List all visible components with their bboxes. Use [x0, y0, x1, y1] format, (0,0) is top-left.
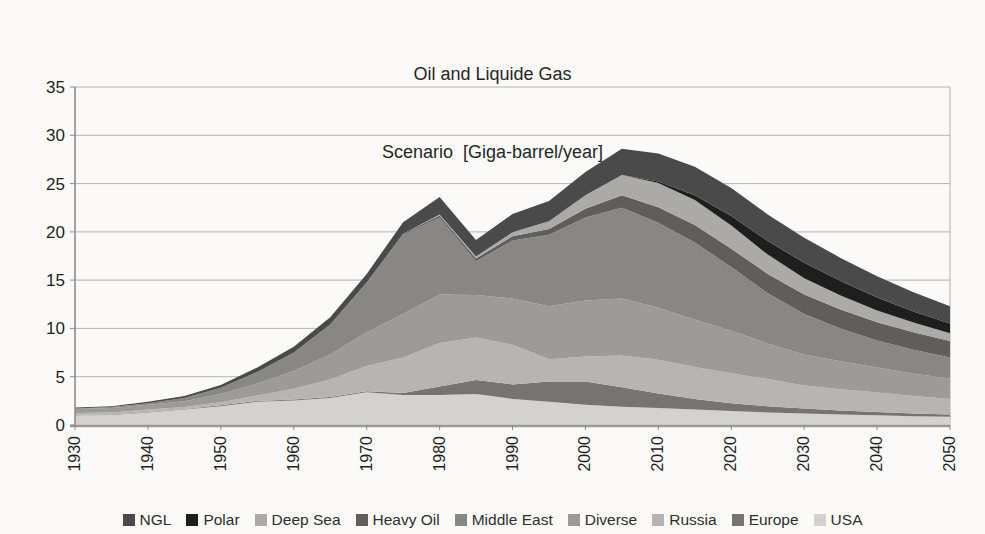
y-tick-label-5: 5: [56, 368, 65, 387]
legend-swatch-polar: [186, 514, 198, 526]
x-tick-label-1980: 1980: [431, 436, 448, 472]
x-tick-label-1970: 1970: [358, 436, 375, 472]
legend-item-russia: Russia: [652, 511, 716, 529]
legend-label-polar: Polar: [203, 511, 239, 529]
legend-item-polar: Polar: [186, 511, 239, 529]
x-tick-label-1950: 1950: [212, 436, 229, 472]
y-tick-label-35: 35: [46, 78, 65, 97]
legend-item-diverse: Diverse: [568, 511, 638, 529]
x-tick-label-2010: 2010: [649, 436, 666, 472]
x-tick-label-1960: 1960: [285, 436, 302, 472]
legend-item-europe: Europe: [732, 511, 799, 529]
x-tick-label-2030: 2030: [795, 436, 812, 472]
scanned-chart-page: Oil and Liquide Gas Scenario [Giga-barre…: [0, 0, 985, 534]
legend-swatch-europe: [732, 514, 744, 526]
y-tick-label-10: 10: [46, 319, 65, 338]
legend-label-middle-east: Middle East: [472, 511, 553, 529]
y-tick-label-25: 25: [46, 175, 65, 194]
legend-swatch-diverse: [568, 514, 580, 526]
legend-swatch-heavy-oil: [356, 514, 368, 526]
legend-label-heavy-oil: Heavy Oil: [373, 511, 440, 529]
legend-label-russia: Russia: [669, 511, 716, 529]
x-tick-label-1930: 1930: [66, 436, 83, 472]
x-tick-label-2050: 2050: [941, 436, 958, 472]
legend-label-ngl: NGL: [140, 511, 172, 529]
x-tick-label-2040: 2040: [868, 436, 885, 472]
x-tick-label-2020: 2020: [722, 436, 739, 472]
y-tick-label-15: 15: [46, 271, 65, 290]
legend-item-middle-east: Middle East: [455, 511, 553, 529]
y-tick-label-30: 30: [46, 126, 65, 145]
x-tick-label-1940: 1940: [139, 436, 156, 472]
stacked-area-chart: 0510152025303519301940195019601970198019…: [0, 0, 985, 534]
legend-swatch-ngl: [123, 514, 135, 526]
legend-swatch-middle-east: [455, 514, 467, 526]
legend-swatch-deep-sea: [255, 514, 267, 526]
x-tick-label-1990: 1990: [504, 436, 521, 472]
legend-item-heavy-oil: Heavy Oil: [356, 511, 440, 529]
legend-label-usa: USA: [831, 511, 863, 529]
legend-label-europe: Europe: [749, 511, 799, 529]
legend-swatch-russia: [652, 514, 664, 526]
legend-label-deep-sea: Deep Sea: [272, 511, 341, 529]
legend-swatch-usa: [814, 514, 826, 526]
legend-item-ngl: NGL: [123, 511, 172, 529]
legend-item-usa: USA: [814, 511, 863, 529]
legend-label-diverse: Diverse: [585, 511, 638, 529]
x-tick-label-2000: 2000: [576, 436, 593, 472]
legend-item-deep-sea: Deep Sea: [255, 511, 341, 529]
y-tick-label-0: 0: [56, 416, 65, 435]
y-tick-label-20: 20: [46, 223, 65, 242]
chart-legend: NGLPolarDeep SeaHeavy OilMiddle EastDive…: [0, 511, 985, 529]
